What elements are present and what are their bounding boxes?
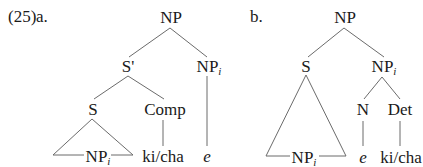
branch-sbar-to-comp [128,76,164,99]
leaf-empty-e-b: e [359,149,367,166]
index-subscript: i [107,155,110,167]
branch-npi-to-det [382,77,400,99]
node-label: NP [197,57,219,76]
node-label: NP [372,57,394,76]
node-label: NP [86,147,108,166]
node-npi-b: NPi [372,58,397,75]
branch-np-to-sbar [129,28,170,57]
triangle-s-b [266,75,346,156]
branch-sbar-to-s [94,76,128,99]
index-subscript: i [218,65,221,77]
node-npi-a: NPi [197,58,222,75]
index-subscript: i [313,156,316,167]
leaf-empty-e-a: e [203,148,211,165]
tree-a-label: a. [36,8,48,25]
leaf-kicha-a: ki/cha [142,148,184,165]
branch-np-to-npi-b [344,28,384,57]
tree-b-label: b. [250,8,263,25]
node-n-b: N [357,101,369,118]
node-np-root-a: NP [160,9,182,26]
node-det-b: Det [388,101,413,118]
branch-np-to-s-b [308,28,344,57]
leaf-kicha-b: ki/cha [380,149,422,166]
node-s-b: S [301,58,310,75]
example-number: (25) [8,8,36,25]
node-triangle-npi-b: NPi [292,149,317,166]
node-np-root-b: NP [334,9,356,26]
node-comp-a: Comp [144,101,186,118]
node-s-a: S [88,101,97,118]
node-label: NP [292,148,314,167]
branch-np-to-npi [170,28,207,57]
tree-branches [0,0,423,167]
node-sbar-a: S' [122,58,135,75]
branch-npi-to-n [364,77,382,99]
index-subscript: i [393,65,396,77]
node-triangle-npi-a: NPi [86,148,111,165]
